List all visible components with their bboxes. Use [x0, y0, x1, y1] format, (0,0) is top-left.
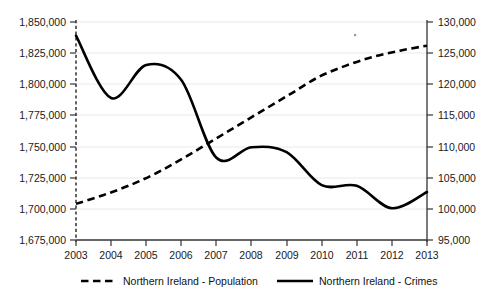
legend-label-crimes: Northern Ireland - Crimes — [319, 275, 437, 287]
left-tick-label: 1,700,000 — [19, 203, 66, 215]
chart-container: 1,850,000 1,825,000 1,800,000 1,775,000 … — [0, 0, 499, 299]
x-axis-tick-labels: 2003 2004 2005 2006 2007 2008 2009 2010 … — [64, 249, 439, 261]
left-tick-label: 1,800,000 — [19, 78, 66, 90]
right-tick-label: 115,000 — [438, 109, 475, 121]
x-tick-label: 2006 — [169, 249, 193, 261]
right-tick-label: 120,000 — [438, 78, 476, 90]
x-tick-label: 2007 — [204, 249, 228, 261]
x-tick-label: 2003 — [64, 249, 88, 261]
left-tick-label: 1,725,000 — [19, 172, 66, 184]
right-tick-label: 100,000 — [438, 203, 476, 215]
left-tick-label: 1,825,000 — [19, 47, 66, 59]
x-tick-label: 2005 — [134, 249, 158, 261]
right-tick-label: 110,000 — [438, 141, 475, 153]
x-tick-label: 2009 — [275, 249, 299, 261]
x-tick-label: 2010 — [310, 249, 334, 261]
x-tick-label: 2011 — [346, 249, 369, 261]
x-tick-label: 2013 — [415, 249, 439, 261]
left-tick-label: 1,675,000 — [19, 234, 66, 246]
left-tick-label: 1,750,000 — [19, 141, 66, 153]
x-tick-label: 2008 — [239, 249, 263, 261]
dual-axis-line-chart: 1,850,000 1,825,000 1,800,000 1,775,000 … — [0, 0, 499, 299]
right-tick-label: 125,000 — [438, 47, 476, 59]
left-tick-label: 1,775,000 — [19, 109, 66, 121]
right-tick-label: 95,000 — [438, 234, 470, 246]
legend-label-population: Northern Ireland - Population — [123, 275, 258, 287]
right-tick-label: 130,000 — [438, 16, 476, 28]
x-tick-label: 2004 — [99, 249, 123, 261]
left-tick-label: 1,850,000 — [19, 16, 66, 28]
x-tick-label: 2012 — [380, 249, 404, 261]
scan-speck — [354, 34, 356, 36]
right-tick-label: 105,000 — [438, 172, 476, 184]
